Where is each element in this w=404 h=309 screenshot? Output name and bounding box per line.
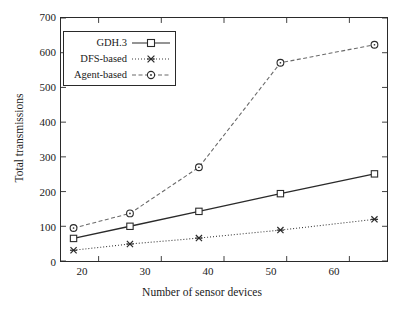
y-tick-label-100: 100	[16, 222, 56, 233]
legend-item-dfs-based: DFS-based	[66, 51, 171, 67]
chart-figure: 700 600 500 400 300 200 100 0 20 30 40 5…	[0, 0, 404, 309]
x-axis-title: Number of sensor devices	[0, 286, 404, 298]
legend: GDH.3 DFS-based Agent-based	[63, 31, 176, 86]
legend-swatch-dotted-star-icon	[131, 52, 171, 66]
legend-item-agent-based: Agent-based	[66, 67, 171, 83]
legend-swatch-dashed-circle-icon	[131, 68, 171, 82]
y-tick-label-700: 700	[16, 12, 56, 23]
y-axis-title: Total transmissions	[13, 63, 25, 213]
y-tick-label-0: 0	[16, 257, 56, 268]
legend-swatch-solid-square-icon	[131, 36, 171, 50]
x-tick-label-50: 50	[256, 266, 286, 277]
x-tick-label-40: 40	[193, 266, 223, 277]
legend-label-dfs-based: DFS-based	[80, 54, 127, 65]
x-tick-label-30: 30	[130, 266, 160, 277]
x-tick-label-20: 20	[67, 266, 97, 277]
x-tick-label-60: 60	[319, 266, 349, 277]
legend-label-gdh3: GDH.3	[96, 38, 127, 49]
y-tick-label-600: 600	[16, 47, 56, 58]
legend-label-agent-based: Agent-based	[74, 70, 127, 81]
legend-item-gdh3: GDH.3	[66, 35, 171, 51]
